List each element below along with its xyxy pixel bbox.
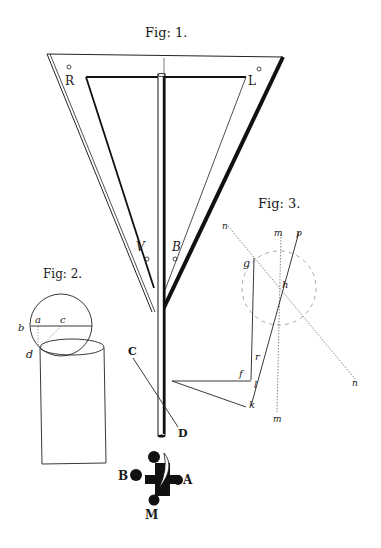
label-D: D xyxy=(178,427,188,440)
label-r: r xyxy=(255,351,261,362)
fig3-title: Fig: 3. xyxy=(258,196,300,211)
label-g: g xyxy=(243,257,250,270)
figure-1: Fig: 1. R L V B C D xyxy=(47,25,283,440)
label-p: p xyxy=(296,228,302,238)
label-m-bottom: m xyxy=(273,414,282,424)
figure-2: Fig: 2. b a c d xyxy=(18,267,106,464)
label-d: d xyxy=(26,348,33,361)
label-C: C xyxy=(128,345,137,358)
label-h: h xyxy=(282,279,288,290)
label-b: b xyxy=(18,322,24,333)
label-n-top: n xyxy=(222,221,228,231)
fig2-title: Fig: 2. xyxy=(43,267,82,281)
label-V: V xyxy=(136,240,146,254)
emblem: B A M xyxy=(118,451,193,522)
label-l: l xyxy=(254,379,257,390)
emblem-label-M: M xyxy=(145,508,158,522)
label-R: R xyxy=(65,74,75,88)
label-L: L xyxy=(248,74,256,88)
label-k: k xyxy=(249,399,255,410)
label-f: f xyxy=(238,368,245,379)
emblem-label-B: B xyxy=(118,469,128,483)
label-B: B xyxy=(171,240,181,254)
emblem-label-A: A xyxy=(182,473,193,487)
label-n-bottom: n xyxy=(352,378,358,388)
engraving-plate: Fig: 1. R L V B C D Fig: 2. xyxy=(0,0,381,548)
fig1-title: Fig: 1. xyxy=(145,25,187,40)
label-m-top: m xyxy=(274,228,283,238)
label-a: a xyxy=(35,314,41,325)
label-c: c xyxy=(60,314,66,325)
